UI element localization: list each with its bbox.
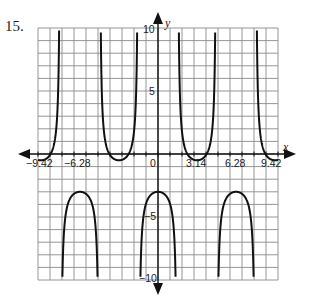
secant-curve-branch <box>38 31 59 161</box>
y-axis-down-arrow-icon <box>153 283 163 295</box>
x-tick-label: −6.28 <box>64 157 91 169</box>
x-tick-label: 9.42 <box>261 157 282 169</box>
x-tick-label: 6.28 <box>225 157 246 169</box>
y-tick-label: 5 <box>149 85 155 97</box>
x-tick-label: 3.14 <box>186 157 207 169</box>
y-tick-label: −5 <box>144 210 156 222</box>
y-axis-label: y <box>164 16 171 30</box>
secant-graph: x y −9.42 −6.28 0 3.14 6.28 9.42 10 5 −5… <box>0 0 311 299</box>
secant-curve-branch <box>257 31 278 161</box>
x-tick-label: −9.42 <box>26 157 53 169</box>
x-axis-label: x <box>282 140 289 154</box>
x-tick-label: 0 <box>150 157 156 169</box>
y-tick-label: 10 <box>143 23 155 35</box>
y-tick-label: −10 <box>139 272 157 284</box>
